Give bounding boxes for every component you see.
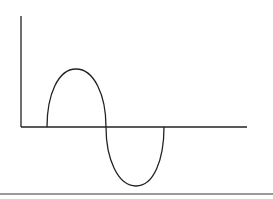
bottom-divider [0,193,273,195]
sine-wave-positive-half [47,69,106,127]
sine-wave-negative-half [106,127,164,186]
sine-wave-diagram [0,0,273,199]
